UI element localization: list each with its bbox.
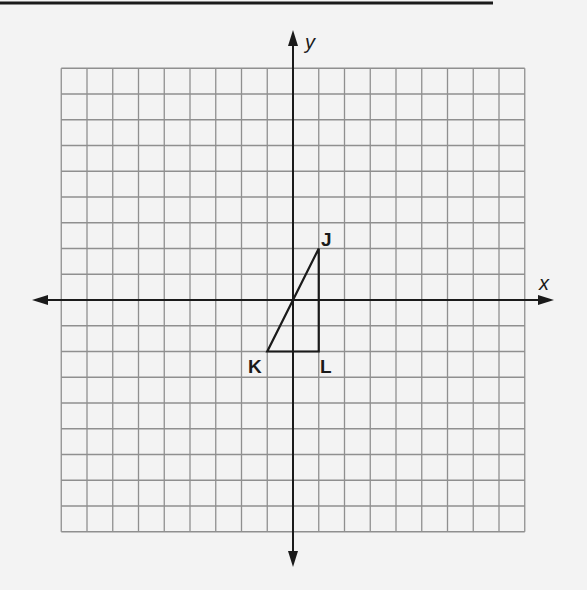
- vertex-label-l: L: [320, 357, 332, 376]
- y-axis-up-arrow: [288, 30, 298, 46]
- y-axis-label: y: [305, 32, 315, 52]
- vertex-label-k: K: [248, 357, 262, 376]
- x-axis-left-arrow: [32, 295, 48, 305]
- vertex-label-j: J: [321, 230, 332, 249]
- y-axis-down-arrow: [288, 551, 298, 567]
- x-axis-right-arrow: [538, 295, 554, 305]
- x-axis-label: x: [539, 273, 549, 293]
- coordinate-plane: [0, 0, 587, 590]
